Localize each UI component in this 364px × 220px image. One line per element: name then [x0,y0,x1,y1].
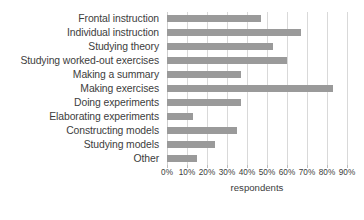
bar [167,43,273,50]
category-label: Frontal instruction [78,13,159,24]
plot-area [167,12,347,165]
bar [167,127,237,134]
x-tick-label: 80% [319,168,335,178]
x-tick-label: 60% [279,168,295,178]
category-axis: Frontal instruction Individual instructi… [0,12,163,165]
category-tick: Studying theory [0,40,163,54]
category-label: Making exercises [80,83,159,94]
bar-chart: Frontal instruction Individual instructi… [0,0,364,220]
bar-series [167,12,347,165]
category-label: Studying theory [88,41,159,52]
category-tick: Individual instruction [0,26,163,40]
category-tick: Elaborating experiments [0,109,163,123]
bar-row [167,82,347,96]
category-label: Making a summary [73,69,159,80]
category-tick: Studying worked-out exercises [0,54,163,68]
gridline [347,12,348,165]
category-tick: Doing experiments [0,95,163,109]
bar [167,99,241,106]
x-tick-label: 30% [219,168,235,178]
axis-title: respondents [167,182,347,194]
bar [167,113,193,120]
bar-row [167,137,347,151]
bar-row [167,68,347,82]
category-label: Studying worked-out exercises [20,55,159,66]
category-label: Constructing models [66,125,159,136]
x-tick-label: 50% [259,168,275,178]
bar-row [167,151,347,165]
bar-row [167,12,347,26]
category-tick: Making a summary [0,68,163,82]
category-label: Individual instruction [67,27,159,38]
category-tick: Constructing models [0,123,163,137]
category-label: Studying models [84,139,159,150]
category-label: Elaborating experiments [49,111,159,122]
bar-row [167,26,347,40]
x-tick-label: 10% [179,168,195,178]
x-tick-label: 20% [199,168,215,178]
bar [167,29,301,36]
value-axis: 0%10%20%30%40%50%60%70%80%90% [167,165,347,183]
bar-row [167,109,347,123]
x-tick-label: 70% [299,168,315,178]
bar [167,141,215,148]
bar-row [167,123,347,137]
bar [167,155,197,162]
x-tick-label: 90% [339,168,355,178]
bar-row [167,40,347,54]
bar [167,71,241,78]
bar-row [167,54,347,68]
category-label: Doing experiments [74,97,159,108]
bar-row [167,95,347,109]
category-tick: Other [0,151,163,165]
category-tick: Making exercises [0,82,163,96]
bar [167,15,261,22]
category-tick: Studying models [0,137,163,151]
category-tick: Frontal instruction [0,12,163,26]
category-label: Other [134,153,160,164]
x-tick-label: 0% [161,168,173,178]
bar [167,85,333,92]
bar [167,57,287,64]
x-tick-label: 40% [239,168,255,178]
